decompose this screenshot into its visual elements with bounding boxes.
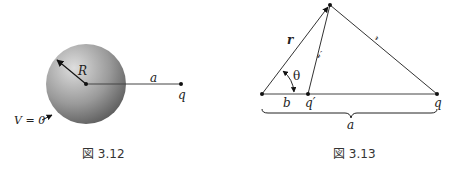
script-r-line (330, 5, 437, 94)
r-label: r (287, 33, 295, 47)
center-dot (84, 82, 88, 86)
q-label: q (434, 96, 442, 110)
caption-3-12: 図 3.12 (82, 147, 125, 161)
radius-label: R (77, 64, 87, 78)
figure-3-13: r θ b q′ q 𝓇′ 𝓇 a 図 3.13 (260, 3, 442, 161)
caption-3-13: 図 3.13 (333, 147, 376, 161)
charge-label: q (178, 88, 186, 102)
script-r-label: 𝓇 (374, 31, 379, 42)
figure-3-12: R a q V = 0 図 3.12 (14, 44, 186, 161)
theta-label: θ (293, 69, 300, 83)
charge-dot (179, 82, 183, 86)
origin-dot (260, 92, 264, 96)
diagram-canvas: R a q V = 0 図 3.12 r θ b q′ q 𝓇′ 𝓇 a 図 3… (0, 0, 452, 169)
distance-label: a (150, 71, 157, 85)
b-label: b (283, 96, 291, 110)
a-label: a (347, 118, 354, 132)
apex-dot (328, 3, 332, 7)
potential-label: V = 0 (14, 114, 45, 127)
script-r-prime-label: 𝓇′ (316, 49, 323, 60)
a-brace (262, 109, 437, 118)
q-prime-label: q′ (305, 96, 316, 110)
